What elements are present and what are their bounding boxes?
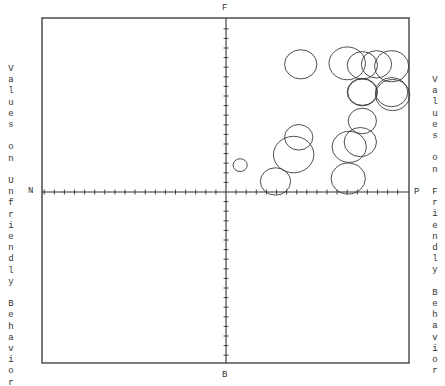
pole-label-left: N: [28, 186, 33, 196]
axes: [42, 18, 409, 363]
bubble: [348, 79, 377, 105]
bubble: [260, 168, 290, 195]
pole-label-bottom: B: [222, 370, 227, 380]
bubble: [273, 136, 313, 172]
bubble: [347, 52, 377, 79]
y-axis-label-right: V a l u e s o n F r i e n d l y B e h a …: [428, 75, 442, 377]
bubble-chart: [0, 0, 445, 386]
bubbles: [233, 47, 410, 195]
bubble: [233, 159, 247, 172]
bubble: [344, 127, 376, 156]
bubble: [375, 80, 409, 111]
bubble: [348, 108, 376, 134]
pole-label-right: P: [414, 187, 419, 197]
bubble: [331, 163, 365, 194]
bubble: [285, 50, 317, 79]
bubble: [332, 131, 366, 162]
pole-label-top: F: [222, 3, 227, 13]
y-axis-label-left: V a l u e s o n U n f r i e n d l y B e …: [4, 64, 18, 386]
